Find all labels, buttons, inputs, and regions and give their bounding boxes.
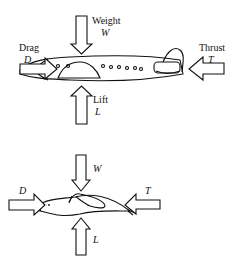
airplane-wing [58,62,100,78]
drag-label: Drag [19,42,39,53]
lift-arrow [71,86,92,124]
weight-arrow [71,16,92,54]
bird-lift-symbol: L [92,234,99,245]
drag-symbol: D [23,54,32,65]
bird-lift-arrow [72,218,90,255]
weight-label: Weight [92,15,121,26]
weight-symbol: W [101,27,111,38]
bird-thrust-symbol: T [145,185,152,196]
thrust-arrow [189,57,224,80]
bird-eye [48,204,50,206]
bird-weight-arrow [72,155,90,191]
thrust-label: Thrust [199,42,225,53]
bird-drag-symbol: D [18,185,27,196]
lift-label: Lift [93,94,108,105]
bird-drag-arrow [9,194,45,215]
airplane-windows [57,65,143,71]
lift-symbol: L [94,106,101,117]
airplane-panel: Weight W Drag D Thrust T Lift L [19,15,225,124]
bird-weight-symbol: W [93,163,103,174]
bird-panel: W D T L [9,155,160,255]
bird-body [40,195,130,215]
force-diagram: Weight W Drag D Thrust T Lift L W D [0,0,237,269]
